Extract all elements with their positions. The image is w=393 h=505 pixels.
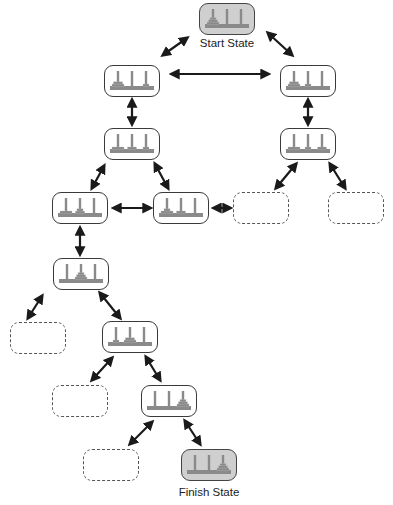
double-arrow-icon bbox=[92, 166, 104, 188]
state-node-s5 bbox=[52, 192, 108, 224]
state-node-s3 bbox=[104, 128, 160, 160]
state-node-s7 bbox=[53, 258, 109, 290]
double-arrow-icon bbox=[146, 357, 160, 380]
tower-of-hanoi-icon bbox=[200, 4, 254, 34]
state-space-diagram: Start State Finish State bbox=[0, 0, 393, 505]
tower-of-hanoi-icon bbox=[53, 193, 107, 223]
state-node-finish bbox=[181, 449, 237, 481]
tower-of-hanoi-icon bbox=[281, 66, 335, 96]
state-node-s6 bbox=[153, 192, 209, 224]
double-arrow-icon bbox=[330, 164, 345, 188]
double-arrow-icon bbox=[100, 293, 120, 318]
finish-state-label: Finish State bbox=[179, 486, 240, 498]
double-arrow-icon bbox=[276, 164, 296, 188]
double-arrow-icon bbox=[92, 358, 112, 380]
tower-of-hanoi-icon bbox=[154, 193, 208, 223]
tower-of-hanoi-icon bbox=[142, 386, 196, 416]
tower-of-hanoi-icon bbox=[105, 129, 159, 159]
tower-of-hanoi-icon bbox=[182, 450, 236, 480]
tower-of-hanoi-icon bbox=[105, 66, 159, 96]
state-node-s9 bbox=[141, 385, 197, 417]
start-state-label: Start State bbox=[200, 37, 254, 49]
unexplored-state-placeholder bbox=[52, 385, 108, 417]
double-arrow-icon bbox=[185, 421, 200, 444]
unexplored-state-placeholder bbox=[10, 322, 66, 354]
double-arrow-icon bbox=[155, 164, 168, 188]
tower-of-hanoi-icon bbox=[103, 322, 157, 352]
state-node-start bbox=[199, 3, 255, 35]
state-node-s8 bbox=[102, 321, 158, 353]
unexplored-state-placeholder bbox=[328, 192, 384, 224]
state-node-s1 bbox=[104, 65, 160, 97]
state-node-s2 bbox=[280, 65, 336, 97]
unexplored-state-placeholder bbox=[83, 449, 139, 481]
state-node-s4 bbox=[280, 128, 336, 160]
double-arrow-icon bbox=[130, 422, 152, 444]
double-arrow-icon bbox=[268, 33, 292, 55]
double-arrow-icon bbox=[163, 38, 187, 55]
double-arrow-icon bbox=[28, 296, 42, 318]
tower-of-hanoi-icon bbox=[54, 259, 108, 289]
tower-of-hanoi-icon bbox=[281, 129, 335, 159]
unexplored-state-placeholder bbox=[233, 192, 289, 224]
